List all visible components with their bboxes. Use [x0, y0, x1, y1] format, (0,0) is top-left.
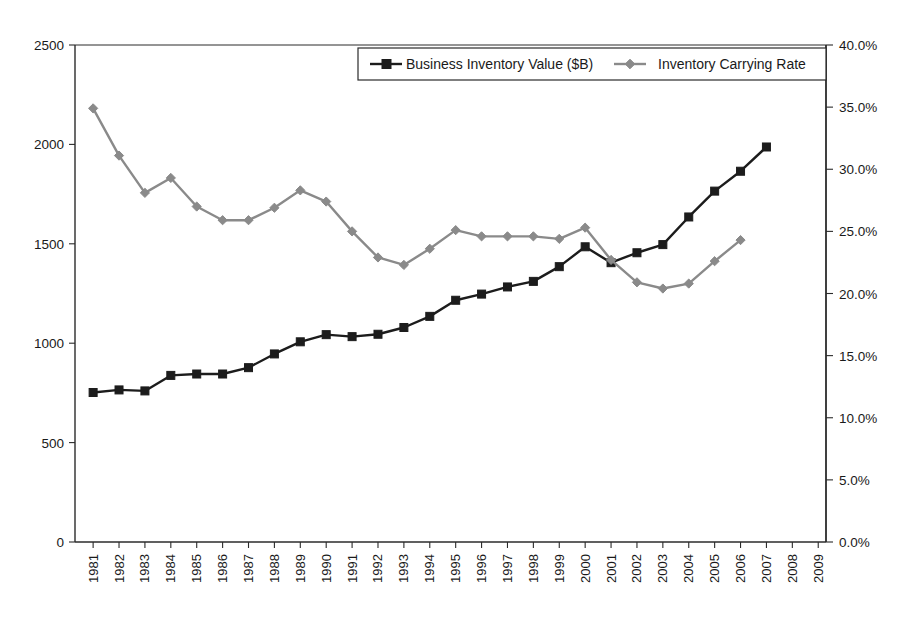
series-layer [89, 104, 771, 397]
x-tick-label: 2005 [707, 554, 722, 583]
line-chart: 05001000150020002500 0.0%5.0%10.0%15.0%2… [0, 0, 921, 617]
series-line-1 [93, 147, 766, 393]
right-tick-label: 30.0% [839, 162, 877, 177]
x-tick-label: 2001 [604, 554, 619, 583]
x-tick-label: 1986 [215, 554, 230, 583]
data-point-marker [193, 370, 201, 378]
x-tick-label: 1982 [112, 554, 127, 583]
data-point-marker [115, 386, 123, 394]
left-tick-label: 0 [56, 535, 64, 550]
right-tick-label: 35.0% [839, 100, 877, 115]
x-tick-label: 1992 [370, 554, 385, 583]
right-tick-label: 25.0% [839, 224, 877, 239]
data-point-marker [503, 283, 511, 291]
data-point-marker [452, 296, 460, 304]
left-tick-label: 1500 [34, 237, 64, 252]
data-point-marker [348, 333, 356, 341]
right-axis-ticks: 0.0%5.0%10.0%15.0%20.0%25.0%30.0%35.0%40… [826, 38, 877, 550]
legend-label: Business Inventory Value ($B) [406, 56, 593, 72]
x-tick-label: 1988 [267, 554, 282, 583]
legend-marker-square-icon [382, 60, 391, 69]
right-tick-label: 15.0% [839, 349, 877, 364]
data-point-marker [529, 232, 538, 241]
data-point-marker [685, 213, 693, 221]
data-point-marker [581, 243, 589, 251]
data-point-marker [141, 387, 149, 395]
data-point-marker [555, 234, 564, 243]
data-point-marker [219, 370, 227, 378]
chart-legend: Business Inventory Value ($B)Inventory C… [358, 48, 826, 80]
plot-frame [75, 45, 826, 542]
data-point-marker [167, 371, 175, 379]
chart-container: 05001000150020002500 0.0%5.0%10.0%15.0%2… [0, 0, 921, 617]
left-tick-label: 1000 [34, 336, 64, 351]
data-point-marker [426, 312, 434, 320]
legend-label: Inventory Carrying Rate [658, 56, 806, 72]
right-tick-label: 0.0% [839, 535, 870, 550]
data-point-marker [89, 389, 97, 397]
x-tick-label: 1985 [189, 554, 204, 583]
series-line-2 [93, 108, 740, 288]
x-tick-label: 1990 [319, 554, 334, 583]
data-point-marker [296, 338, 304, 346]
data-point-marker [374, 330, 382, 338]
data-point-marker [245, 364, 253, 372]
x-tick-label: 1998 [526, 554, 541, 583]
data-point-marker [244, 216, 253, 225]
data-point-marker [218, 216, 227, 225]
data-point-marker [503, 232, 512, 241]
data-point-marker [711, 187, 719, 195]
right-tick-label: 5.0% [839, 473, 870, 488]
x-tick-label: 1999 [552, 554, 567, 583]
x-tick-label: 1991 [345, 554, 360, 583]
right-tick-label: 10.0% [839, 411, 877, 426]
data-point-marker [633, 249, 641, 257]
data-point-marker [89, 104, 98, 113]
left-axis-ticks: 05001000150020002500 [34, 38, 75, 550]
x-tick-label: 1981 [86, 554, 101, 583]
data-point-marker [555, 263, 563, 271]
x-tick-label: 2003 [655, 554, 670, 583]
data-point-marker [529, 277, 537, 285]
x-tick-label: 2008 [785, 554, 800, 583]
x-tick-label: 1995 [448, 554, 463, 583]
data-point-marker [270, 350, 278, 358]
x-tick-label: 1983 [137, 554, 152, 583]
data-point-marker [658, 284, 667, 293]
left-tick-label: 500 [41, 436, 64, 451]
x-axis-ticks: 1981198219831984198519861987198819891990… [86, 542, 826, 583]
x-tick-label: 1989 [293, 554, 308, 583]
x-tick-label: 1993 [396, 554, 411, 583]
data-point-marker [477, 232, 486, 241]
x-tick-label: 1994 [422, 554, 437, 583]
data-point-marker [400, 323, 408, 331]
data-point-marker [322, 331, 330, 339]
x-tick-label: 1996 [474, 554, 489, 583]
right-tick-label: 20.0% [839, 287, 877, 302]
x-tick-label: 1987 [241, 554, 256, 583]
x-tick-label: 2000 [578, 554, 593, 583]
left-tick-label: 2500 [34, 38, 64, 53]
x-tick-label: 2007 [759, 554, 774, 583]
x-tick-label: 1984 [163, 554, 178, 583]
data-point-marker [478, 290, 486, 298]
data-point-marker [659, 241, 667, 249]
data-point-marker [737, 167, 745, 175]
right-tick-label: 40.0% [839, 38, 877, 53]
x-tick-label: 2004 [681, 554, 696, 583]
left-tick-label: 2000 [34, 137, 64, 152]
x-tick-label: 2002 [629, 554, 644, 583]
data-point-marker [762, 143, 770, 151]
x-tick-label: 2006 [733, 554, 748, 583]
x-tick-label: 1997 [500, 554, 515, 583]
x-tick-label: 2009 [811, 554, 826, 583]
